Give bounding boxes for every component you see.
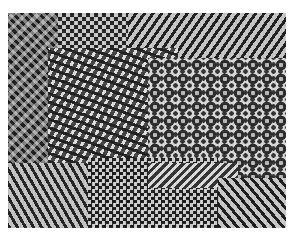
texture-mosaic <box>8 13 286 228</box>
top-checker-region <box>58 13 128 48</box>
bottom-left-zigzag-region <box>8 163 88 228</box>
bottom-right-stripes-region <box>218 178 286 228</box>
